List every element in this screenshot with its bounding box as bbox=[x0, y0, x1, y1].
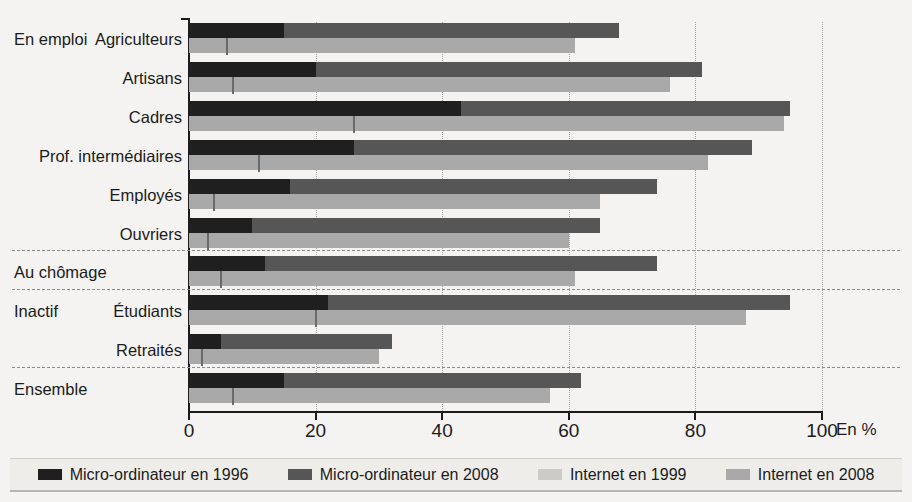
bar-internet-2008 bbox=[189, 38, 575, 53]
row-label-agriculteurs: Agriculteurs bbox=[95, 30, 182, 49]
bar-micro-ordinateur-1996 bbox=[189, 295, 328, 310]
chart-legend: Micro-ordinateur en 1996Micro-ordinateur… bbox=[10, 458, 902, 492]
bar-row: Prof. intermédiaires bbox=[0, 139, 912, 178]
bar-micro-ordinateur-1996 bbox=[189, 179, 290, 194]
bar-internet-1999 bbox=[207, 233, 209, 250]
legend-item[interactable]: Micro-ordinateur en 2008 bbox=[288, 466, 499, 484]
bar-internet-2008 bbox=[189, 388, 550, 403]
x-tick-label-40: 40 bbox=[432, 420, 453, 442]
row-label-employ-s: Employés bbox=[110, 186, 182, 205]
bar-internet-1999 bbox=[232, 77, 234, 94]
bar-row: Cadres bbox=[0, 100, 912, 139]
bar-micro-ordinateur-1996 bbox=[189, 62, 316, 77]
bar-internet-2008 bbox=[189, 194, 600, 209]
legend-label: Micro-ordinateur en 1996 bbox=[70, 466, 249, 484]
legend-swatch-icon bbox=[538, 469, 562, 480]
bar-internet-2008 bbox=[189, 233, 569, 248]
group-label-inactif: Inactif bbox=[14, 302, 58, 321]
bar-internet-1999 bbox=[226, 38, 228, 55]
bar-row: AgriculteursEn emploi bbox=[0, 22, 912, 61]
bar-row: ÉtudiantsInactif bbox=[0, 294, 912, 333]
bar-internet-2008 bbox=[189, 271, 575, 286]
group-label-ensemble: Ensemble bbox=[14, 380, 87, 399]
legend-item[interactable]: Micro-ordinateur en 1996 bbox=[38, 466, 249, 484]
bar-row: Au chômage bbox=[0, 255, 912, 294]
row-label-cadres: Cadres bbox=[129, 108, 182, 127]
bar-micro-ordinateur-1996 bbox=[189, 101, 461, 116]
row-label-ouvriers: Ouvriers bbox=[120, 225, 182, 244]
y-axis-top-cap bbox=[181, 18, 190, 20]
bar-internet-1999 bbox=[232, 388, 234, 405]
x-axis-line bbox=[188, 411, 823, 413]
bar-row: Retraités bbox=[0, 333, 912, 372]
x-tick-mark-100 bbox=[821, 413, 823, 420]
legend-swatch-icon bbox=[288, 469, 312, 480]
bar-internet-1999 bbox=[201, 349, 203, 366]
x-tick-mark-0 bbox=[188, 413, 190, 420]
x-tick-label-100: 100 bbox=[806, 420, 838, 442]
bar-micro-ordinateur-1996 bbox=[189, 373, 284, 388]
legend-item[interactable]: Internet en 1999 bbox=[538, 466, 687, 484]
x-tick-label-0: 0 bbox=[184, 420, 195, 442]
x-axis-unit-label: En % bbox=[836, 420, 877, 440]
row-label-prof-interm-diaires: Prof. intermédiaires bbox=[39, 147, 182, 166]
legend-label: Micro-ordinateur en 2008 bbox=[320, 466, 499, 484]
bar-internet-1999 bbox=[220, 271, 222, 288]
x-tick-mark-80 bbox=[694, 413, 696, 420]
bar-internet-1999 bbox=[258, 155, 260, 172]
bar-internet-1999 bbox=[213, 194, 215, 211]
bar-row: Ouvriers bbox=[0, 217, 912, 256]
bar-row: Employés bbox=[0, 178, 912, 217]
row-label-retrait-s: Retraités bbox=[116, 341, 182, 360]
x-tick-mark-40 bbox=[441, 413, 443, 420]
bar-micro-ordinateur-1996 bbox=[189, 140, 354, 155]
bar-micro-ordinateur-1996 bbox=[189, 23, 284, 38]
legend-swatch-icon bbox=[726, 469, 750, 480]
bar-internet-1999 bbox=[315, 310, 317, 327]
legend-label: Internet en 1999 bbox=[570, 466, 687, 484]
bar-row: Artisans bbox=[0, 61, 912, 100]
bar-internet-2008 bbox=[189, 116, 784, 131]
bar-internet-2008 bbox=[189, 155, 708, 170]
x-tick-mark-20 bbox=[315, 413, 317, 420]
x-tick-mark-60 bbox=[568, 413, 570, 420]
legend-swatch-icon bbox=[38, 469, 62, 480]
x-tick-label-80: 80 bbox=[685, 420, 706, 442]
bar-internet-1999 bbox=[353, 116, 355, 133]
group-label-au-ch-mage: Au chômage bbox=[14, 263, 107, 282]
legend-item[interactable]: Internet en 2008 bbox=[726, 466, 875, 484]
chart-area: AgriculteursEn emploiArtisansCadresProf.… bbox=[0, 0, 912, 455]
row-label-tudiants: Étudiants bbox=[113, 302, 182, 321]
bar-micro-ordinateur-1996 bbox=[189, 256, 265, 271]
bar-micro-ordinateur-1996 bbox=[189, 334, 221, 349]
bar-internet-2008 bbox=[189, 349, 379, 364]
bar-micro-ordinateur-1996 bbox=[189, 218, 252, 233]
bar-row: Ensemble bbox=[0, 372, 912, 411]
row-label-artisans: Artisans bbox=[122, 69, 182, 88]
group-label-en-emploi: En emploi bbox=[14, 30, 87, 49]
x-tick-label-20: 20 bbox=[305, 420, 326, 442]
legend-label: Internet en 2008 bbox=[758, 466, 875, 484]
x-tick-label-60: 60 bbox=[558, 420, 579, 442]
bar-internet-2008 bbox=[189, 77, 670, 92]
bar-internet-2008 bbox=[189, 310, 746, 325]
